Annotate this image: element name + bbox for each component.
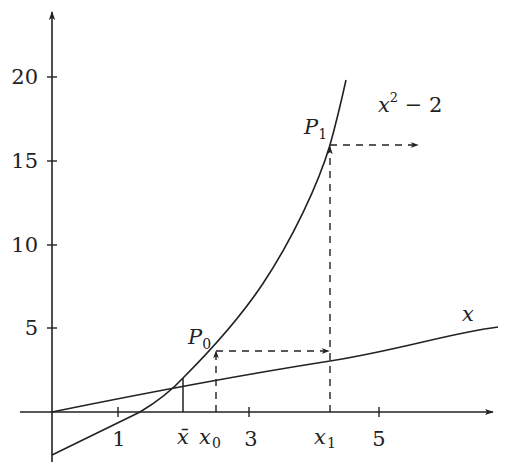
x-label-xbar: x̄ xyxy=(177,425,189,449)
point-label-p1: P1 xyxy=(303,115,327,142)
line-label: x xyxy=(462,302,474,326)
iteration-path xyxy=(216,145,418,412)
y-tick-label-20: 20 xyxy=(11,65,38,89)
x-tick-label-1: 1 xyxy=(112,427,125,451)
point-label-p0: P0 xyxy=(187,325,211,352)
x-tick-label-3: 3 xyxy=(244,427,257,451)
x-tick-labels: 1 3 5 x̄ x0 x1 xyxy=(112,425,385,451)
parabola-label: x2 − 2 xyxy=(378,90,442,117)
x-tick-label-5: 5 xyxy=(372,427,385,451)
x-label-x0: x0 xyxy=(199,425,221,451)
axes xyxy=(20,12,493,462)
fixed-point-diagram: 20 15 10 5 1 3 5 x̄ x0 x1 x2 − 2 x P0 P1 xyxy=(0,0,506,474)
y-tick-label-15: 15 xyxy=(11,149,38,173)
line-y-equals-x xyxy=(52,327,498,412)
y-tick-label-5: 5 xyxy=(25,316,38,340)
x-label-x1: x1 xyxy=(314,425,336,451)
y-tick-labels: 20 15 10 5 xyxy=(11,65,38,340)
y-tick-label-10: 10 xyxy=(11,233,38,257)
parabola-curve xyxy=(52,80,346,455)
